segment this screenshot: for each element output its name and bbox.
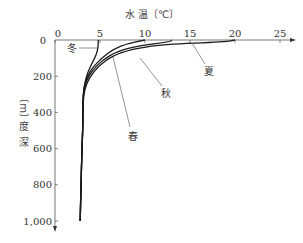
label-autumn: 秋 xyxy=(161,87,171,99)
y-tick-label: 400 xyxy=(33,107,52,118)
x-tick-label: 20 xyxy=(229,28,242,39)
y-tick-label: 800 xyxy=(33,179,52,190)
y-tick-label: 1,000 xyxy=(23,216,52,227)
label-winter: 冬 xyxy=(67,42,77,54)
svg-text:深: 深 xyxy=(19,137,29,148)
x-tick-label: 0 xyxy=(55,28,61,39)
summer-leader-line xyxy=(192,43,205,64)
x-tick-label: 10 xyxy=(139,28,152,39)
x-tick-label: 25 xyxy=(274,28,287,39)
autumn-leader-line xyxy=(140,58,162,86)
y-axis-arrow-icon xyxy=(53,226,57,232)
water-temperature-depth-chart: 水 温〔℃〕 深 度 〔m〕 0510152025 2004006008001,… xyxy=(0,0,303,243)
label-summer: 夏 xyxy=(204,66,214,77)
y-tick-label: 600 xyxy=(33,143,52,154)
spring-leader-line xyxy=(113,57,130,127)
x-axis-title: 水 温〔℃〕 xyxy=(125,9,179,20)
x-tick-label: 15 xyxy=(184,28,197,39)
x-tick-label: 5 xyxy=(97,28,103,39)
y-axis-title: 深 度 〔m〕 xyxy=(18,93,29,148)
svg-text:〔m〕: 〔m〕 xyxy=(18,93,29,123)
label-spring: 春 xyxy=(128,131,138,142)
x-axis-arrow-icon xyxy=(290,38,296,42)
y-tick-label: 200 xyxy=(33,71,52,82)
y-tick-label-origin: 0 xyxy=(40,35,46,46)
leader-lines xyxy=(79,43,205,127)
